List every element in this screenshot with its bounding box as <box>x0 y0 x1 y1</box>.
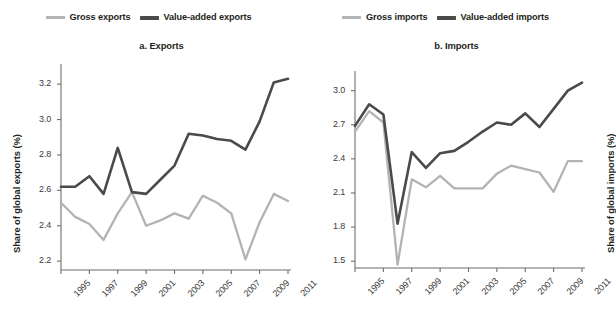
y-axis-tick-label: 3.2 <box>25 78 51 88</box>
chart-panel-exports: Gross exports Value-added exports a. Exp… <box>0 0 297 326</box>
y-axis-tick-label: 2.1 <box>319 187 345 197</box>
y-axis-tick-label: 2.4 <box>25 220 51 230</box>
y-axis-tick-label: 2.6 <box>25 184 51 194</box>
series-line-gross-exports <box>61 192 288 259</box>
series-line-gross-imports <box>355 111 582 264</box>
y-axis-tick-label: 2.7 <box>319 119 345 129</box>
y-axis-tick-label: 1.8 <box>319 221 345 231</box>
y-axis-tick-label: 1.5 <box>319 255 345 265</box>
y-axis-title-imports: Share of global imports (%) <box>605 134 616 253</box>
series-line-value-added-exports <box>61 79 288 194</box>
plot-area-exports <box>0 0 297 326</box>
y-axis-tick-label: 2.4 <box>319 153 345 163</box>
x-axis-tick-label: 2011 <box>592 276 612 296</box>
y-axis-tick-label: 2.2 <box>25 255 51 265</box>
chart-panel-imports: Gross imports Value-added imports b. Imp… <box>297 0 594 326</box>
y-axis-tick-label: 3.0 <box>319 85 345 95</box>
y-axis-tick-label: 3.0 <box>25 114 51 124</box>
series-line-value-added-imports <box>355 83 582 224</box>
y-axis-tick-label: 2.8 <box>25 149 51 159</box>
